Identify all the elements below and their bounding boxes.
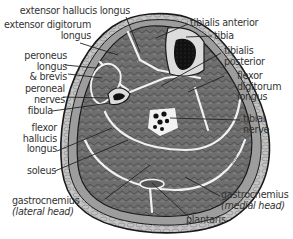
label-soleus: soleus: [27, 166, 56, 177]
label-line: (medial head): [221, 201, 288, 212]
label-extensor-digitorum-longus: extensor digitorum longus: [4, 20, 91, 41]
label-line: tibialis: [224, 46, 265, 57]
label-fibula: fibula: [28, 106, 53, 117]
label-line: nerves: [25, 95, 65, 106]
label-line: peroneus: [24, 51, 67, 62]
label-flexor-hallucis-longus: flexor hallucis longus: [23, 123, 57, 155]
label-line: & brevis: [24, 72, 67, 83]
label-line: longus: [237, 92, 281, 103]
label-line: nerve: [243, 125, 269, 136]
label-tibialis-posterior: tibialis posterior: [224, 46, 265, 67]
label-line: longus: [23, 144, 57, 155]
label-tibialis-anterior: tibialis anterior: [190, 18, 258, 29]
plantaris-muscle: [140, 180, 164, 189]
label-line: tibial: [243, 114, 269, 125]
label-line: flexor: [23, 123, 57, 134]
label-flexor-digitorum-longus: flexor digitorum longus: [237, 71, 281, 103]
label-peroneal-nerves: peroneal nerves: [25, 84, 65, 105]
label-gastrocnemius-lateral-head: gastrocnemius (lateral head): [12, 196, 79, 217]
label-gastrocnemius-medial-head: gastrocnemius (medial head): [221, 190, 288, 211]
label-line: gastrocnemius: [12, 196, 79, 207]
label-line: posterior: [224, 57, 265, 68]
label-plantaris: plantaris: [186, 215, 226, 226]
label-line: gastrocnemius: [221, 190, 288, 201]
label-line: longus: [4, 31, 91, 42]
label-tibia: tibia: [214, 31, 234, 42]
label-line: flexor: [237, 71, 281, 82]
label-tibial-nerve: tibial nerve: [243, 114, 269, 135]
label-line: extensor digitorum: [4, 20, 91, 31]
label-extensor-hallucis-longus: extensor hallucis longus: [20, 6, 130, 17]
label-line: peroneal: [25, 84, 65, 95]
label-line: (lateral head): [12, 207, 79, 218]
label-peroneus-longus-brevis: peroneus longus & brevis: [24, 51, 67, 83]
